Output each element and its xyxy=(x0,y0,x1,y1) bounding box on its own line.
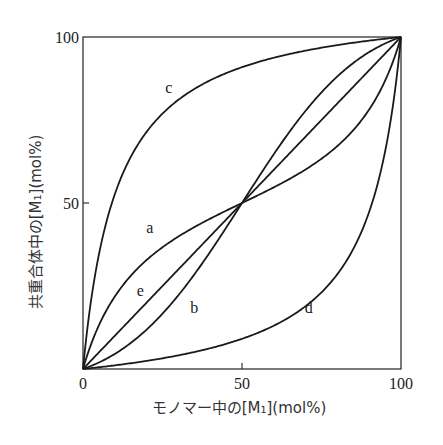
copolymer-composition-chart: abcde 05010050100 モノマー中の[M₁](mol%) 共重合体中… xyxy=(0,0,443,445)
y-tick-label: 100 xyxy=(55,29,79,46)
curve-e xyxy=(83,37,401,369)
curve-label-c: c xyxy=(165,79,172,96)
curves xyxy=(83,37,401,369)
x-tick-label: 100 xyxy=(389,375,413,392)
y-axis-title: 共重合体中の[M₁](mol%) xyxy=(27,135,45,310)
x-tick-label: 50 xyxy=(234,375,250,392)
x-axis-title: モノマー中の[M₁](mol%) xyxy=(152,399,327,417)
curve-label-a: a xyxy=(146,219,153,236)
x-tick-label: 0 xyxy=(79,375,87,392)
curve-label-d: d xyxy=(305,299,313,316)
y-tick-label: 50 xyxy=(63,195,79,212)
curve-label-e: e xyxy=(137,282,144,299)
curve-label-b: b xyxy=(190,299,198,316)
curve-labels: abcde xyxy=(137,79,313,315)
